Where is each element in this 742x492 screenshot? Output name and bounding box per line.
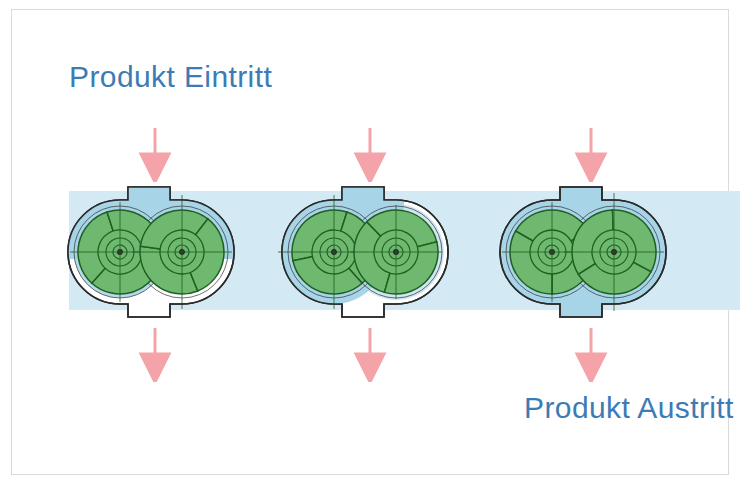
pump-stage-2 bbox=[264, 165, 484, 340]
diagram-frame: Produkt Eintritt Produkt Austritt bbox=[11, 9, 729, 475]
pump-stage-1 bbox=[50, 165, 270, 340]
diagram-canvas: Produkt Eintritt Produkt Austritt bbox=[0, 0, 742, 492]
pump-stage-3 bbox=[482, 165, 702, 340]
product-inlet-label: Produkt Eintritt bbox=[69, 60, 272, 94]
product-outlet-label: Produkt Austritt bbox=[524, 391, 734, 425]
